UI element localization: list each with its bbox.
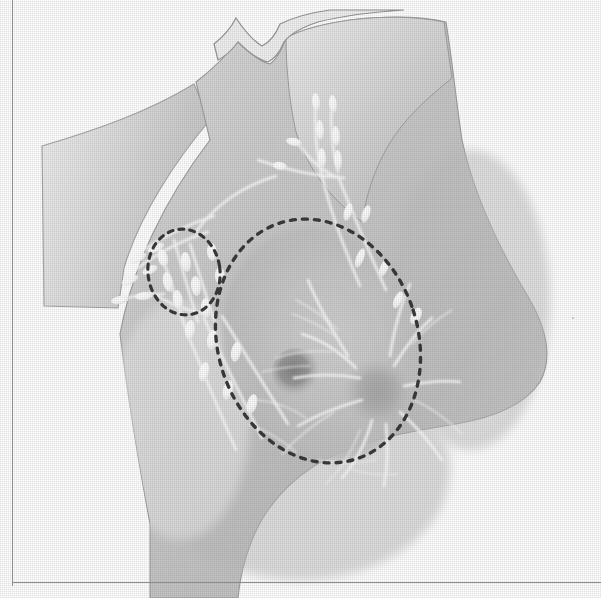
page-rule-left [12,0,13,586]
page-rule-bottom [12,582,601,583]
figure-page [0,0,601,598]
anatomical-illustration [0,0,601,598]
nipple [364,376,392,404]
torso-shading-b [390,150,550,450]
print-speck [572,317,574,319]
lesion [272,348,320,396]
